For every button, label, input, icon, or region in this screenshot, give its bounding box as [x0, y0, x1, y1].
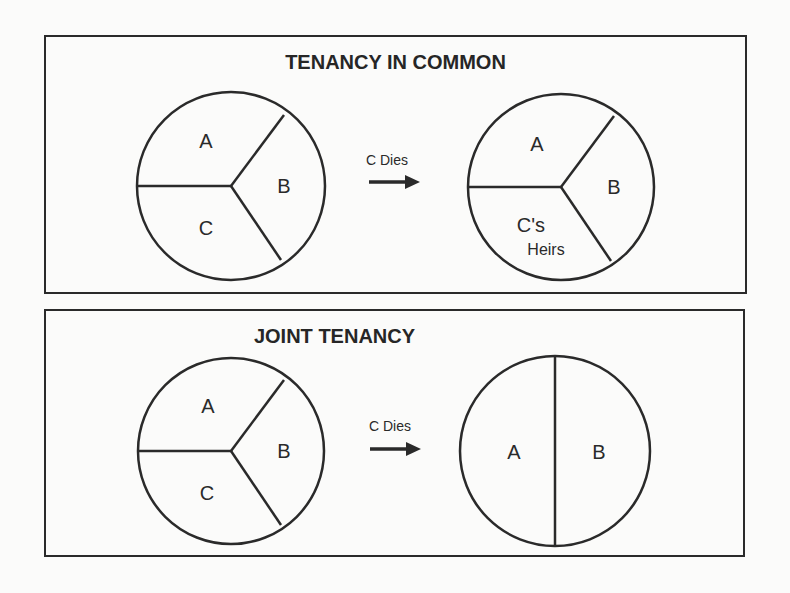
segment-label-a: A [530, 133, 544, 155]
segment-label-c: C [200, 482, 214, 504]
segment-label-b: B [277, 175, 290, 197]
event-label: C Dies [366, 152, 408, 168]
segment-label-a: A [199, 130, 213, 152]
segment-label-b: B [592, 441, 605, 463]
before-ownership-pie [137, 92, 325, 280]
segment-label-b: B [607, 176, 620, 198]
segment-label-c: C [199, 217, 213, 239]
before-ownership-pie [138, 358, 324, 544]
segment-label-heirs: Heirs [527, 241, 564, 258]
diagram-canvas: A B C A B C's Heirs A B C A B C Dies C D… [0, 0, 790, 593]
segment-label-c-heirs: C's [517, 214, 545, 236]
segment-label-a: A [507, 441, 521, 463]
segment-label-a: A [201, 395, 215, 417]
after-ownership-pie [460, 356, 650, 546]
event-label: C Dies [369, 418, 411, 434]
segment-label-b: B [277, 440, 290, 462]
